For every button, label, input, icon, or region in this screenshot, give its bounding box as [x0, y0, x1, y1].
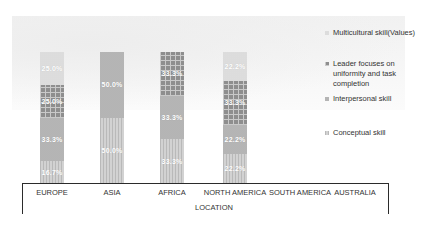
bar-segment-conceptual: 50.0% [100, 118, 124, 184]
legend-item-leader: Leader focuses on uniformity and task co… [325, 59, 428, 89]
data-label: 33.3% [225, 99, 246, 106]
bar-segment-leader: 33.3% [160, 52, 184, 96]
data-label: 25.0% [42, 65, 63, 72]
data-label: 33.3% [162, 158, 183, 165]
bar-north-america: 22.2%22.2%33.3%22.2% [223, 52, 247, 183]
bar-segment-conceptual: 33.3% [160, 139, 184, 183]
bar-segment-conceptual: 16.7% [40, 161, 64, 183]
bar-segment-interpersonal: 22.2% [223, 125, 247, 154]
data-label: 22.2% [225, 63, 246, 70]
data-label: 50.0% [102, 81, 123, 88]
data-label: 22.2% [225, 165, 246, 172]
data-label: 33.3% [162, 70, 183, 77]
legend-item-conceptual: Conceptual skill [325, 128, 428, 138]
bar-segment-interpersonal: 33.3% [160, 96, 184, 140]
legend-label: Multicultural skill(Values) [333, 28, 428, 38]
legend-swatch-icon [325, 97, 329, 101]
category-label: NORTH AMERICA [200, 188, 270, 197]
bar-segment-conceptual: 22.2% [223, 154, 247, 183]
legend-label: Conceptual skill [333, 128, 428, 138]
category-label: AFRICA [137, 188, 207, 197]
legend-item-interpersonal: Interpersonal skill [325, 94, 428, 104]
data-label: 33.3% [162, 114, 183, 121]
data-label: 16.7% [42, 169, 63, 176]
bar-segment-interpersonal: 50.0% [100, 52, 124, 118]
bar-segment-interpersonal: 33.3% [40, 118, 64, 162]
data-label: 33.3% [42, 136, 63, 143]
x-axis-title: LOCATION [184, 203, 244, 212]
data-label: 25.0% [42, 98, 63, 105]
legend-label: Leader focuses on uniformity and task co… [333, 59, 428, 89]
bar-asia: 50.0%50.0% [100, 52, 124, 183]
bar-africa: 33.3%33.3%33.3% [160, 52, 184, 183]
bar-segment-multicultural: 22.2% [223, 52, 247, 81]
bar-segment-multicultural: 25.0% [40, 52, 64, 85]
bar-segment-leader: 25.0% [40, 85, 64, 118]
bar-europe: 16.7%33.3%25.0%25.0% [40, 52, 64, 183]
data-label: 50.0% [102, 147, 123, 154]
legend-swatch-icon [325, 131, 329, 135]
data-label: 22.2% [225, 136, 246, 143]
legend-swatch-icon [325, 62, 329, 66]
category-label: AUSTRALIA [320, 188, 390, 197]
legend-label: Interpersonal skill [333, 94, 428, 104]
bar-segment-leader: 33.3% [223, 81, 247, 125]
legend-item-multicultural: Multicultural skill(Values) [325, 28, 428, 38]
legend-swatch-icon [325, 31, 329, 35]
